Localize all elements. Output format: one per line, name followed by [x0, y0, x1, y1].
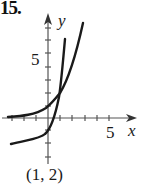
- graph: [0, 0, 145, 191]
- y-axis-label: y: [58, 11, 66, 31]
- intersection-caption: (1, 2): [26, 165, 63, 185]
- y-axis: [44, 13, 52, 164]
- x-axis-label: x: [128, 121, 136, 141]
- shallow-curve: [8, 23, 83, 117]
- y-tick-label-5: 5: [31, 50, 40, 70]
- x-tick-label-5: 5: [106, 123, 115, 143]
